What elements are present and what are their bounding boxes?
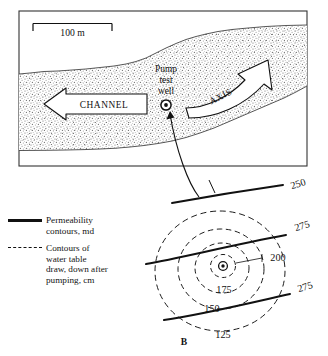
pump-test-well-label-line1: Pump <box>155 64 177 74</box>
scale-bar-label: 100 m <box>60 27 85 38</box>
label-permeability-250: 250 <box>289 176 307 191</box>
panel-b-well-symbol <box>219 262 228 271</box>
label-permeability-275-upper: 275 <box>293 218 311 233</box>
legend-solid-line-icon <box>8 219 42 222</box>
panel-b-label: B <box>181 336 188 347</box>
legend-drawdown-label: Contours of water table draw, down after… <box>46 243 142 285</box>
panel-b-contours: 250 275 275 200 175 150 125 B <box>146 176 314 347</box>
panel-a-map: 100 m CHANNEL AXIS Pump test well <box>19 11 307 166</box>
permeability-contour-275-lower <box>164 294 290 320</box>
drawdown-200-leader <box>236 258 262 263</box>
pump-test-well-symbol <box>161 100 171 110</box>
figure-container: 100 m CHANNEL AXIS Pump test well <box>0 0 328 356</box>
figure-svg: 100 m CHANNEL AXIS Pump test well <box>0 0 328 356</box>
legend-permeability-label: Permeability contours, md <box>46 215 136 236</box>
label-drawdown-150: 150 <box>204 303 219 314</box>
label-permeability-275-lower: 275 <box>296 279 314 294</box>
label-drawdown-200: 200 <box>270 252 285 263</box>
legend-dashed-line-icon <box>8 247 42 248</box>
pump-test-well-label-line2: test <box>159 75 172 85</box>
channel-arrow-label: CHANNEL <box>80 100 128 110</box>
label-drawdown-125: 125 <box>215 329 230 340</box>
pump-test-well-label-line3: well <box>158 86 175 96</box>
label-drawdown-175: 175 <box>216 284 231 295</box>
permeability-contour-250 <box>172 185 283 203</box>
permeability-contour-275-upper <box>146 235 286 264</box>
contour-250-tick <box>209 180 215 193</box>
